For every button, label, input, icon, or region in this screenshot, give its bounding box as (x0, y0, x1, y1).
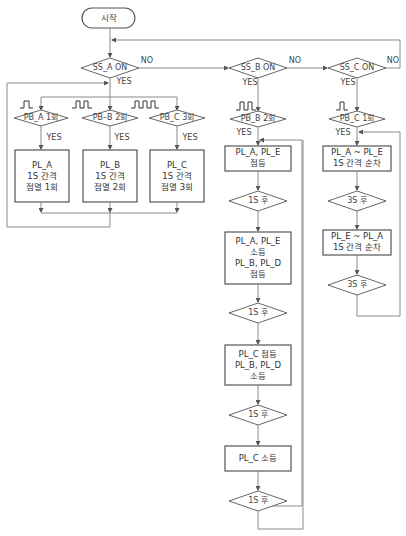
ss-b-label: SS_B ON (241, 64, 275, 72)
wait-c2-text: 3S 후 (347, 281, 367, 289)
process-c1-text: PL_A ~ PL_E 1S 간격 순차 (331, 147, 383, 169)
pb-b-trigger-yes: YES (236, 129, 251, 137)
pb-a-yes: YES (46, 134, 61, 142)
pb-b-label: PB–B 2회 (93, 114, 127, 122)
pb-c-trigger-label: PB_C 1회 (340, 115, 375, 123)
pb-b-trigger-label: PB_B 2회 (241, 115, 275, 123)
pb-b-yes: YES (114, 134, 129, 142)
wait-b2-text: 1S 후 (248, 309, 268, 317)
ss-c-label: SS_C ON (340, 64, 375, 72)
pb-c-label: PB_C 3회 (160, 114, 195, 122)
ss-c-yes: YES (340, 79, 355, 87)
wait-c1-text: 3S 후 (347, 197, 367, 205)
process-b1-text: PL_A, PL_E 점등 (236, 147, 281, 169)
pb-a-label: PB_A 1회 (24, 114, 58, 122)
wait-b4-text: 1S 후 (248, 497, 268, 505)
process-b3-text: PL_C 점등 PL_B, PL_D 소등 (235, 349, 281, 382)
ss-b-yes: YES (242, 79, 257, 87)
process-b2-text: PL_A, PL_E 소등 PL_B, PL_D 점등 (235, 236, 281, 280)
process-pl-b-text: PL_B 1S 간격 점멸 2회 (94, 160, 126, 193)
wait-b3-text: 1S 후 (248, 411, 268, 419)
ss-a-label: SS_A ON (93, 64, 127, 72)
pb-c-yes: YES (182, 134, 197, 142)
pb-c-trigger-yes: YES (335, 129, 350, 137)
ss-a-yes: YES (116, 78, 131, 86)
process-c2-text: PL_E ~ PL_A 1S 간격 순차 (331, 231, 383, 253)
wait-b1-text: 1S 후 (248, 197, 268, 205)
ss-c-no: NO (387, 57, 399, 65)
process-pl-c-text: PL_C 1S 간격 점멸 3회 (161, 160, 193, 193)
process-pl-a-text: PL_A 1S 간격 점멸 1회 (26, 160, 58, 193)
ss-a-no: NO (141, 57, 153, 65)
start-label: 시작 (101, 14, 117, 23)
ss-b-no: NO (289, 57, 301, 65)
process-b4-text: PL_C 소등 (239, 453, 278, 464)
